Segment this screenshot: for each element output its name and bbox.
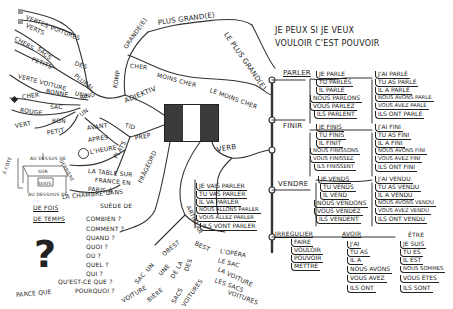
question-word: QUOI ? bbox=[86, 244, 108, 250]
etre-item: VOUS ÊTES bbox=[400, 275, 439, 283]
mind-map: JE PEUX SI JE VEUX VOULOIR C'EST POUVOIR… bbox=[0, 0, 453, 309]
finir-label: FINIR bbox=[283, 123, 302, 130]
flag-stripe-right bbox=[200, 105, 218, 141]
sous-label: SOUS bbox=[38, 182, 51, 187]
question-word: POURQUOI ? bbox=[75, 288, 115, 294]
square-marker bbox=[18, 9, 23, 14]
etre-item: ILS SONT bbox=[400, 285, 433, 293]
question-word: QUAND ? bbox=[86, 235, 115, 241]
present-item: ILS PARLENT bbox=[314, 111, 357, 119]
question-word: QU'EST-CE QUE ? bbox=[58, 279, 113, 285]
vendre-label: VENDRE bbox=[278, 181, 308, 188]
suede-de-label: SUÈDE DE bbox=[100, 203, 132, 209]
parler-label: PARLER bbox=[283, 70, 311, 77]
present-item: ILS FINISSENT bbox=[314, 164, 356, 171]
question-mark-icon: ? bbox=[34, 232, 56, 276]
past-item: ILS ONT PARLÉ bbox=[375, 111, 424, 119]
past-item: ILS ONT FINI bbox=[375, 164, 417, 172]
present-item: ILS VENDENT bbox=[316, 216, 361, 224]
irregulier-label: IRREGULIER bbox=[275, 231, 313, 237]
motto-line-1: JE PEUX SI JE VEUX bbox=[275, 27, 354, 35]
irregular-verb: METTRE bbox=[291, 263, 320, 271]
french-flag bbox=[164, 104, 219, 142]
question-word: COMMENT ? bbox=[86, 226, 124, 232]
au-dessous-de-label: AU DESSOUS DE bbox=[28, 193, 68, 198]
flag-stripe-middle bbox=[183, 105, 201, 141]
question-word: QUI ? bbox=[86, 271, 103, 277]
question-word: QUEL ? bbox=[86, 262, 109, 268]
sac-label: SAC bbox=[50, 104, 63, 110]
bon-label: BON bbox=[52, 118, 66, 124]
avoir-item: ILS ONT bbox=[347, 285, 376, 293]
clock-icon bbox=[78, 148, 89, 159]
avoir-item: IL A bbox=[347, 257, 363, 265]
de-temps-label: DE TEMPS bbox=[33, 216, 65, 222]
question-word: COMBIEN ? bbox=[86, 216, 121, 222]
flag-stripe-left bbox=[165, 105, 183, 141]
sur-label: SUR bbox=[38, 170, 48, 175]
avoir-label: AVOIR bbox=[342, 231, 361, 237]
avoir-item: NOUS AVONS bbox=[347, 266, 392, 274]
etre-item: NOUS SOMMES bbox=[400, 266, 445, 273]
future-item: ILS VONT PARLER bbox=[200, 223, 257, 231]
square-marker bbox=[18, 19, 23, 24]
question-word: OÙ ? bbox=[86, 253, 101, 259]
de-fois-label: DE FOIS bbox=[33, 205, 58, 211]
etre-item: IL EST bbox=[400, 257, 423, 265]
past-item: ILS ONT VENDU bbox=[375, 216, 427, 224]
motto-line-2: VOULOIR C'EST POUVOIR bbox=[275, 40, 380, 48]
etre-label: ÊTRE bbox=[408, 232, 424, 238]
avoir-item: VOUS AVEZ bbox=[347, 275, 387, 283]
